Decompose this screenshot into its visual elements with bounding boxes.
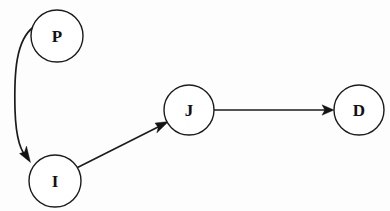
node-p[interactable]: P [31, 10, 83, 62]
node-j[interactable]: J [164, 85, 214, 135]
directed-graph: P I J D [0, 0, 390, 211]
node-j-label: J [185, 101, 194, 120]
node-i-label: I [52, 172, 59, 191]
edge-j-to-d[interactable] [214, 105, 335, 115]
edge-p-to-i[interactable] [15, 27, 34, 163]
edge-i-to-j-path [78, 124, 166, 168]
node-d[interactable]: D [334, 85, 384, 135]
edge-p-to-i-path [15, 27, 34, 160]
diagram-canvas: P I J D [0, 0, 390, 211]
edge-i-to-j[interactable] [78, 122, 169, 168]
node-d-label: D [353, 101, 365, 120]
node-i[interactable]: I [29, 155, 81, 207]
node-p-label: P [52, 27, 62, 46]
